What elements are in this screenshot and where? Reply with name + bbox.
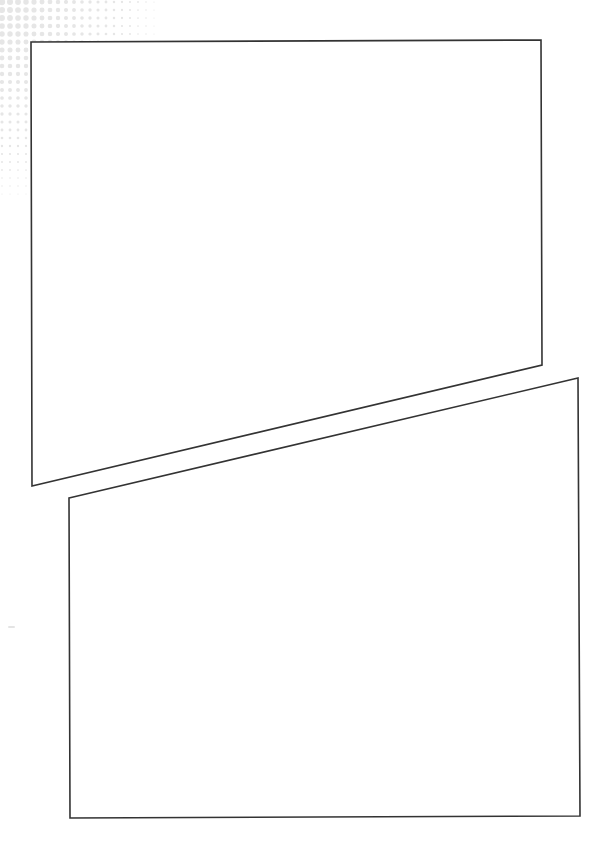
- comic-page: [0, 0, 603, 841]
- panel-layout: [0, 0, 603, 841]
